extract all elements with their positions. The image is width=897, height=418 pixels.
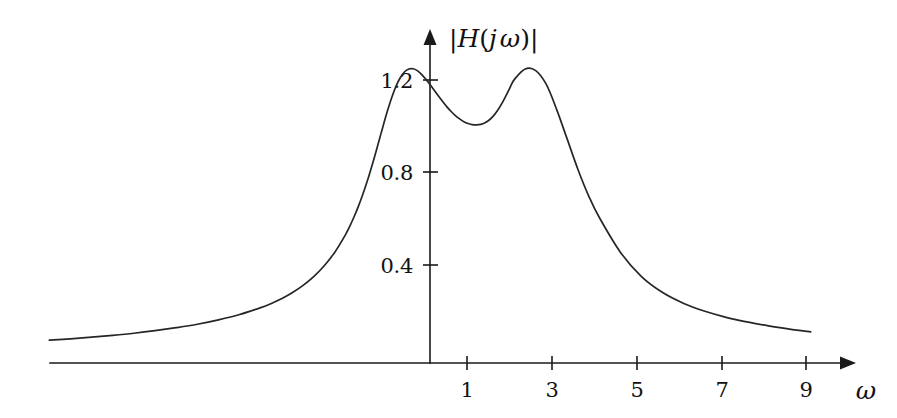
y-axis-label-paren-close: ) (520, 24, 530, 53)
y-tick-label-0-8: 0.8 (381, 161, 414, 185)
y-axis-label: |H(jω)| (449, 24, 538, 54)
y-axis-arrow-icon (424, 29, 437, 45)
y-axis-label-bar-right: | (530, 24, 538, 54)
x-axis-arrow-icon (840, 357, 856, 370)
x-tick-label-7: 7 (715, 378, 728, 402)
y-axis-label-omega: ω (500, 24, 520, 53)
x-axis-label: ω (856, 376, 876, 405)
x-tick-label-1: 1 (460, 378, 473, 402)
y-axis-label-h: H (456, 24, 480, 53)
x-tick-label-9: 9 (799, 378, 812, 402)
x-tick-label-5: 5 (630, 378, 643, 402)
x-axis-group (50, 357, 856, 370)
y-axis-label-bar-left: | (449, 24, 457, 54)
figure-container: 1 3 5 7 9 0.4 0.8 1.2 |H(jω)| ω (0, 0, 897, 418)
x-tick-labels: 1 3 5 7 9 (460, 378, 812, 402)
y-tick-label-0-4: 0.4 (381, 254, 414, 278)
y-axis-label-paren-open: ( (479, 24, 489, 53)
y-tick-labels: 0.4 0.8 1.2 (381, 69, 414, 278)
magnitude-response-chart: 1 3 5 7 9 0.4 0.8 1.2 |H(jω)| ω (0, 0, 897, 418)
y-tick-label-1-2: 1.2 (381, 69, 414, 93)
x-tick-label-3: 3 (545, 378, 558, 402)
